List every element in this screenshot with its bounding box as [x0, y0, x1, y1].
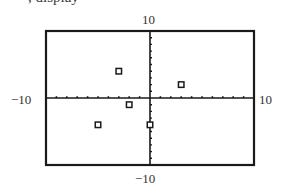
scatter-plot	[0, 0, 286, 195]
data-point-marker	[116, 68, 122, 74]
data-point-marker	[147, 122, 153, 128]
data-point-marker	[178, 82, 184, 88]
data-point-marker	[95, 122, 101, 128]
data-point-marker	[126, 102, 132, 108]
